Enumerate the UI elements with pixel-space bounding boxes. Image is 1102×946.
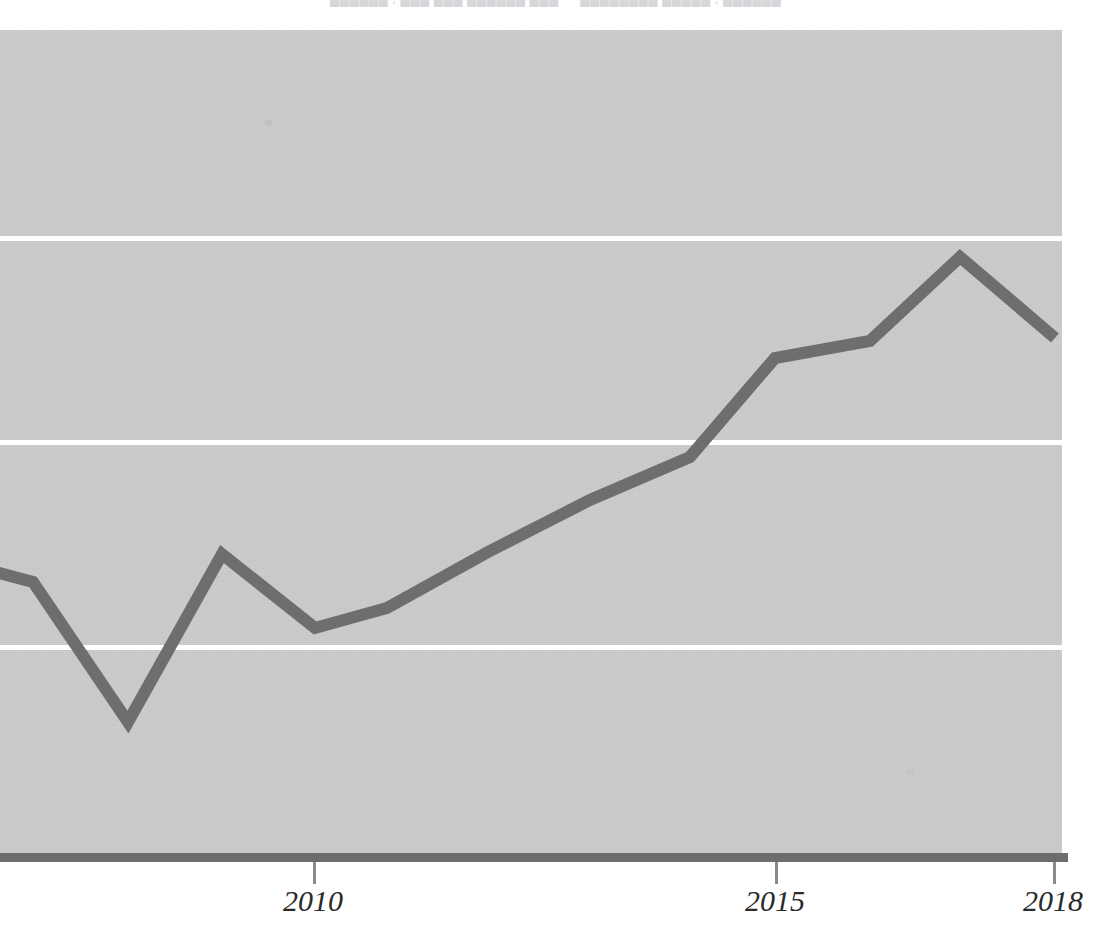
cut-off-header-strip: ██████ , ███ ███ ██████ ███ — ████████ █… [0,0,1102,14]
x-axis-line [0,853,1068,862]
x-axis-label-2018: 2018 [1023,884,1083,918]
chart-page: ██████ , ███ ███ ██████ ███ — ████████ █… [0,0,1102,946]
x-axis-tick-2015 [775,862,778,884]
x-axis-label-2010: 2010 [283,884,343,918]
series-1-polyline [0,257,1055,722]
x-axis-tick-2018 [1053,862,1056,884]
cut-off-header-text: ██████ , ███ ███ ██████ ███ — ████████ █… [330,0,1070,6]
x-axis-tick-2010 [313,862,316,884]
plot-area [0,30,1062,860]
series-line-chart [0,30,1062,860]
x-axis-label-2015: 2015 [745,884,805,918]
